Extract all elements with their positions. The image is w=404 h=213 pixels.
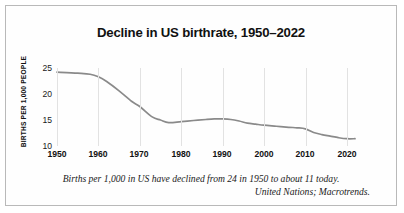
- birthrate-line-path: [57, 72, 355, 139]
- x-tick-1990: 1990: [212, 149, 231, 159]
- gridline-1970: [140, 68, 141, 146]
- x-tick-1960: 1960: [88, 149, 107, 159]
- chart-caption: Births per 1,000 in US have declined fro…: [32, 172, 370, 198]
- x-tick-2010: 2010: [295, 149, 314, 159]
- caption-line-1: Births per 1,000 in US have declined fro…: [32, 172, 370, 185]
- gridline-1960: [98, 68, 99, 146]
- gridline-1980: [181, 68, 182, 146]
- plot-area: [57, 68, 355, 146]
- gridline-1990: [223, 68, 224, 146]
- x-tick-1950: 1950: [47, 149, 66, 159]
- x-tick-2000: 2000: [254, 149, 273, 159]
- birthrate-line-series: [57, 68, 355, 146]
- x-tick-1970: 1970: [129, 149, 148, 159]
- caption-source: United Nations; Macrotrends.: [32, 185, 370, 198]
- gridline-2000: [264, 68, 265, 146]
- x-tick-1980: 1980: [171, 149, 190, 159]
- gridline-2020: [347, 68, 348, 146]
- gridline-1950: [57, 68, 58, 146]
- gridline-2010: [306, 68, 307, 146]
- chart-frame: Decline in US birthrate, 1950–2022 BIRTH…: [5, 5, 397, 206]
- x-tick-2020: 2020: [337, 149, 356, 159]
